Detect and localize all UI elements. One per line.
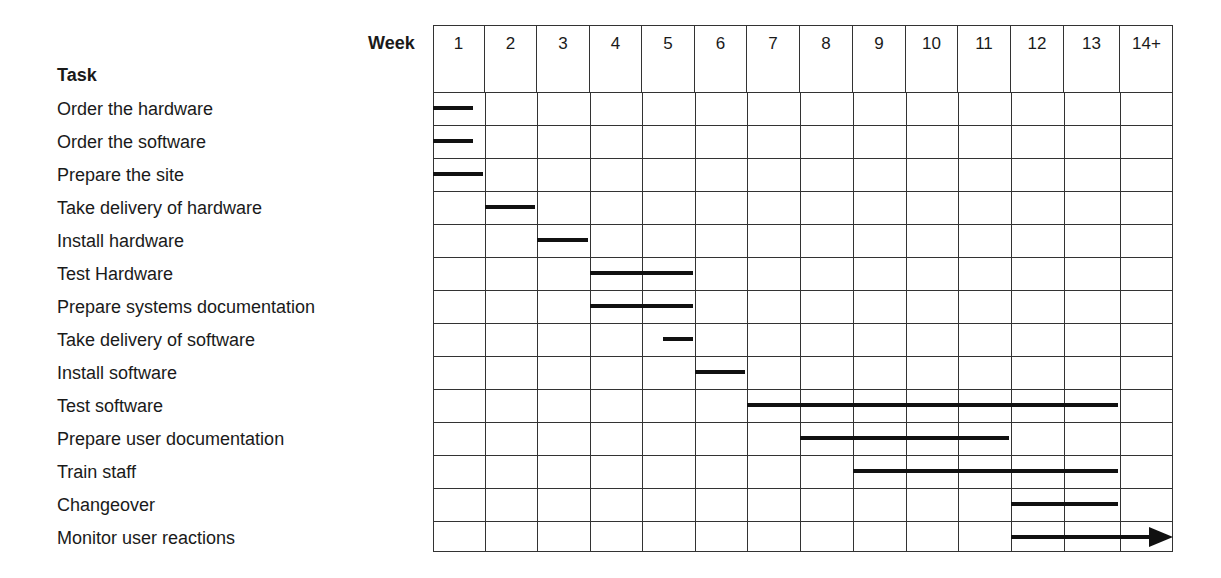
task-label: Take delivery of software	[57, 329, 255, 351]
week-header-6: 6	[695, 25, 747, 92]
task-row	[433, 92, 1173, 125]
task-bar	[433, 106, 473, 110]
task-bar	[1011, 535, 1149, 539]
task-bar	[590, 271, 693, 275]
week-axis-label: Week	[368, 33, 415, 54]
task-label: Prepare systems documentation	[57, 296, 315, 318]
task-bar	[433, 139, 473, 143]
week-header-11: 11	[958, 25, 1011, 92]
task-row	[433, 158, 1173, 191]
task-label: Order the hardware	[57, 98, 213, 120]
arrow-right-icon	[1149, 527, 1173, 547]
task-bar	[800, 436, 1009, 440]
task-row	[433, 290, 1173, 323]
task-row	[433, 356, 1173, 389]
task-label: Take delivery of hardware	[57, 197, 262, 219]
task-label: Test Hardware	[57, 263, 173, 285]
week-header-10: 10	[906, 25, 958, 92]
task-label: Install software	[57, 362, 177, 384]
task-row	[433, 191, 1173, 224]
task-label: Install hardware	[57, 230, 184, 252]
week-header-14-plus: 14+	[1120, 25, 1173, 92]
week-header-2: 2	[485, 25, 537, 92]
task-bar	[485, 205, 535, 209]
gantt-chart: Week Task Order the hardwareOrder the so…	[0, 0, 1221, 578]
task-bar	[590, 304, 693, 308]
week-header-3: 3	[537, 25, 590, 92]
week-header-7: 7	[747, 25, 800, 92]
week-header-4: 4	[590, 25, 642, 92]
task-label: Order the software	[57, 131, 206, 153]
task-bar	[1011, 502, 1118, 506]
task-bar	[695, 370, 745, 374]
task-bar	[433, 172, 483, 176]
task-row	[433, 125, 1173, 158]
task-bar	[537, 238, 588, 242]
week-header-5: 5	[642, 25, 695, 92]
task-bar	[663, 337, 693, 341]
task-bar	[747, 403, 1118, 407]
week-header-8: 8	[800, 25, 853, 92]
task-label: Test software	[57, 395, 163, 417]
week-header-9: 9	[853, 25, 906, 92]
task-label: Prepare user documentation	[57, 428, 284, 450]
gantt-grid: 1234567891011121314+	[433, 25, 1173, 552]
task-bar	[853, 469, 1118, 473]
task-column-header: Task	[57, 65, 97, 86]
task-row	[433, 323, 1173, 356]
task-label: Changeover	[57, 494, 155, 516]
week-header-12: 12	[1011, 25, 1064, 92]
week-header-1: 1	[433, 25, 485, 92]
task-label: Prepare the site	[57, 164, 184, 186]
week-header-13: 13	[1064, 25, 1120, 92]
task-label: Monitor user reactions	[57, 527, 235, 549]
task-row	[433, 257, 1173, 290]
task-label: Train staff	[57, 461, 136, 483]
